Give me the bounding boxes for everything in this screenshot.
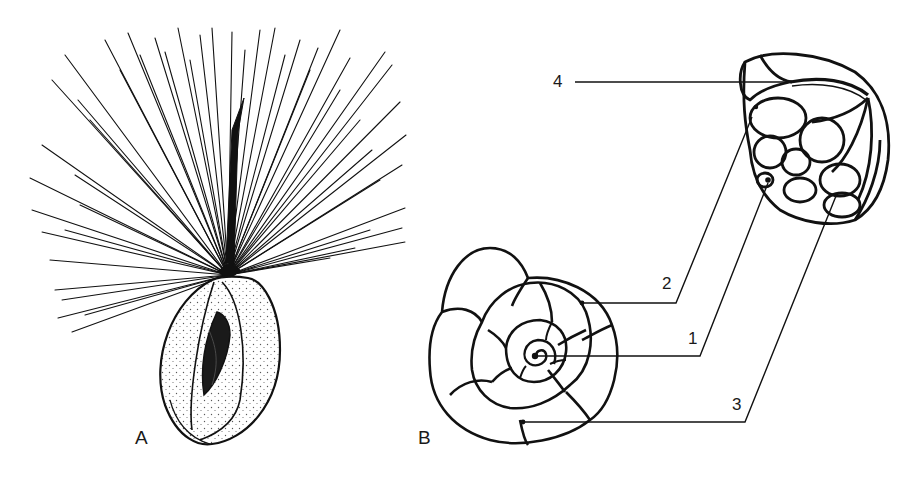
figure: A B 4 2 1 3: [0, 0, 910, 478]
panel-label-b: B: [418, 428, 431, 447]
leader-line-1: [535, 183, 768, 356]
panel-a-shell: [160, 277, 280, 445]
callout-number-2: 2: [662, 275, 671, 292]
callout-number-4: 4: [553, 73, 562, 90]
panel-label-a: A: [135, 428, 148, 447]
leader-line-3: [523, 196, 836, 422]
callout-leader-lines: [521, 82, 836, 424]
illustration-canvas: [0, 0, 910, 478]
callout-number-3: 3: [732, 396, 741, 413]
panel-b-spiral-view: [430, 248, 618, 445]
callout-number-1: 1: [688, 330, 697, 347]
